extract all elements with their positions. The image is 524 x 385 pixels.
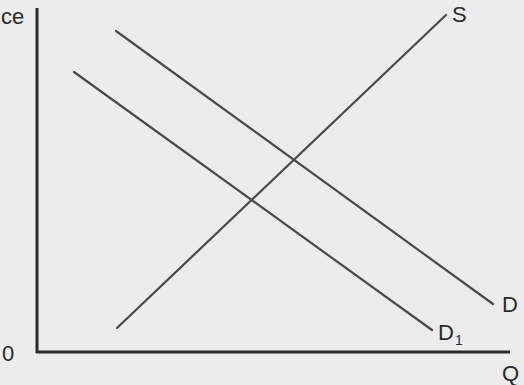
supply-label: S xyxy=(452,2,467,27)
y-axis-label: ce xyxy=(1,4,24,29)
origin-label: 0 xyxy=(2,341,14,366)
supply-curve xyxy=(117,15,446,328)
demand-label: D xyxy=(502,292,518,317)
demand-shifted-label-subscript: 1 xyxy=(455,332,463,348)
x-axis-label: Q xyxy=(502,361,519,385)
demand-curve-shifted xyxy=(74,72,432,330)
demand-curve xyxy=(116,31,493,304)
demand-shifted-label: D 1 xyxy=(438,320,463,348)
demand-shifted-label-main: D xyxy=(438,320,454,345)
supply-demand-diagram: ce 0 Q S D D 1 xyxy=(0,0,524,385)
